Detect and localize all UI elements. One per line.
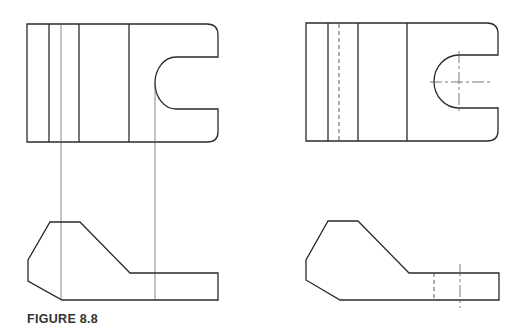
left-front-view	[28, 222, 218, 300]
figure-caption: FIGURE 8.8	[27, 312, 98, 326]
right-top-outline	[306, 23, 498, 141]
left-top-outline	[27, 24, 218, 142]
right-front-outline	[306, 221, 499, 300]
technical-drawing	[0, 0, 518, 331]
left-front-outline	[28, 222, 218, 300]
right-front-view	[306, 221, 499, 308]
right-top-view	[306, 23, 498, 141]
left-top-view	[27, 24, 218, 300]
